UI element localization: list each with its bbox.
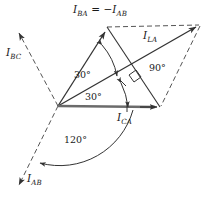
construction-line-top xyxy=(107,25,199,27)
angle-label-90: 90° xyxy=(149,63,166,73)
dashed-phasors xyxy=(19,33,58,185)
angle-label-30-upper: 30° xyxy=(74,70,91,80)
label-i-ab-sub: AB xyxy=(31,178,42,187)
label-i-ab: IAB xyxy=(27,173,42,186)
phasor-diagram-canvas xyxy=(0,0,217,201)
label-i-ca-sub: CA xyxy=(121,117,132,126)
phasor-ibc-line xyxy=(19,33,58,106)
label-i-la-sub: LA xyxy=(147,35,157,44)
label-equals-minus: = − xyxy=(88,3,112,15)
label-i-bc: IBC xyxy=(6,47,21,60)
angle-arc-30-upper xyxy=(102,45,117,76)
label-i-ca: ICA xyxy=(117,112,132,125)
phasor-ila-line xyxy=(58,27,196,106)
label-i-la: ILA xyxy=(143,30,157,43)
label-i-bc-sub: BC xyxy=(10,52,21,61)
label-i-ab-sub2: AB xyxy=(116,9,127,18)
angle-label-120: 120° xyxy=(64,135,87,145)
construction-line-right xyxy=(161,26,200,106)
label-i-ba-sub: BA xyxy=(77,9,88,18)
phasor-diagram-figure: IBA = −IAB IBC ILA ICA IAB 30° 30° 90° 1… xyxy=(0,0,217,201)
solid-phasors xyxy=(58,27,196,107)
label-i-ba-equals-minus-i-ab: IBA = −IAB xyxy=(73,4,127,17)
angle-label-30-lower: 30° xyxy=(85,92,102,102)
